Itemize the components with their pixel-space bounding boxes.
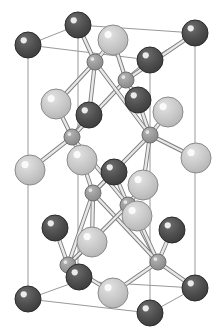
atom-specular-highlight bbox=[123, 200, 127, 204]
atom-dark-atom bbox=[125, 87, 151, 113]
atom-sphere bbox=[182, 275, 208, 301]
atom-small-atom bbox=[85, 185, 101, 201]
atom-sphere bbox=[42, 215, 68, 241]
atom-sphere bbox=[98, 278, 128, 308]
atom-light-atom bbox=[181, 143, 211, 173]
atom-specular-highlight bbox=[128, 207, 135, 214]
atom-light-atom bbox=[15, 155, 45, 185]
crystal-structure-figure bbox=[0, 0, 222, 334]
atom-dark-atom bbox=[137, 47, 163, 73]
atom-sphere bbox=[67, 145, 97, 175]
atom-dark-atom bbox=[182, 20, 208, 46]
atom-dark-atom bbox=[65, 12, 91, 38]
atom-small-atom bbox=[118, 72, 134, 88]
crystal-structure-canvas bbox=[0, 0, 222, 334]
atom-specular-highlight bbox=[188, 25, 194, 31]
atom-sphere bbox=[137, 47, 163, 73]
atom-specular-highlight bbox=[187, 149, 194, 156]
atom-sphere bbox=[128, 170, 158, 200]
atom-dark-atom bbox=[66, 264, 92, 290]
atom-dark-atom bbox=[137, 300, 163, 326]
atom-specular-highlight bbox=[145, 130, 149, 134]
atom-light-atom bbox=[67, 145, 97, 175]
atom-specular-highlight bbox=[121, 75, 125, 79]
atom-sphere bbox=[182, 20, 208, 46]
atom-specular-highlight bbox=[72, 269, 78, 275]
atom-specular-highlight bbox=[21, 291, 27, 297]
atom-sphere bbox=[87, 54, 103, 70]
atom-sphere bbox=[41, 89, 71, 119]
atom-dark-atom bbox=[42, 215, 68, 241]
atom-specular-highlight bbox=[21, 161, 28, 168]
atom-sphere bbox=[77, 227, 107, 257]
atom-light-atom bbox=[122, 201, 152, 231]
atom-specular-highlight bbox=[134, 176, 141, 183]
atom-specular-highlight bbox=[153, 257, 157, 261]
atom-sphere bbox=[159, 217, 185, 243]
atom-specular-highlight bbox=[159, 103, 166, 110]
atom-specular-highlight bbox=[107, 164, 113, 170]
atom-light-atom bbox=[77, 227, 107, 257]
atom-light-atom bbox=[41, 89, 71, 119]
atom-light-atom bbox=[128, 170, 158, 200]
atom-light-atom bbox=[98, 278, 128, 308]
atom-specular-highlight bbox=[73, 151, 80, 158]
atom-sphere bbox=[101, 159, 127, 185]
atom-sphere bbox=[66, 264, 92, 290]
atom-sphere bbox=[64, 129, 80, 145]
atom-specular-highlight bbox=[48, 220, 54, 226]
atom-specular-highlight bbox=[131, 92, 137, 98]
atom-sphere bbox=[118, 72, 134, 88]
atom-sphere bbox=[15, 155, 45, 185]
atom-sphere bbox=[125, 87, 151, 113]
atom-specular-highlight bbox=[104, 31, 111, 38]
atom-specular-highlight bbox=[47, 95, 54, 102]
atom-dark-atom bbox=[159, 217, 185, 243]
atom-specular-highlight bbox=[143, 52, 149, 58]
atom-sphere bbox=[15, 32, 41, 58]
atom-sphere bbox=[150, 254, 166, 270]
atom-sphere bbox=[122, 201, 152, 231]
atom-specular-highlight bbox=[63, 260, 67, 264]
atom-sphere bbox=[65, 12, 91, 38]
atom-specular-highlight bbox=[188, 280, 194, 286]
atom-specular-highlight bbox=[71, 17, 77, 23]
unit-cell-edge bbox=[28, 299, 150, 313]
atom-sphere bbox=[85, 185, 101, 201]
atom-specular-highlight bbox=[21, 37, 27, 43]
atom-sphere bbox=[98, 25, 128, 55]
atom-specular-highlight bbox=[67, 132, 71, 136]
atom-sphere bbox=[76, 102, 102, 128]
atom-light-atom bbox=[153, 97, 183, 127]
atom-dark-atom bbox=[15, 286, 41, 312]
atom-light-atom bbox=[98, 25, 128, 55]
atom-small-atom bbox=[64, 129, 80, 145]
atom-dark-atom bbox=[76, 102, 102, 128]
atom-small-atom bbox=[142, 127, 158, 143]
atom-sphere bbox=[153, 97, 183, 127]
atom-specular-highlight bbox=[88, 188, 92, 192]
atom-dark-atom bbox=[15, 32, 41, 58]
atom-small-atom bbox=[150, 254, 166, 270]
atom-sphere bbox=[15, 286, 41, 312]
atom-specular-highlight bbox=[90, 57, 94, 61]
atom-specular-highlight bbox=[82, 107, 88, 113]
atom-small-atom bbox=[87, 54, 103, 70]
atom-sphere bbox=[137, 300, 163, 326]
atom-dark-atom bbox=[182, 275, 208, 301]
atom-sphere bbox=[181, 143, 211, 173]
atom-specular-highlight bbox=[165, 222, 171, 228]
atom-dark-atom bbox=[101, 159, 127, 185]
unit-cell-edge bbox=[78, 25, 195, 33]
atom-specular-highlight bbox=[104, 284, 111, 291]
atom-specular-highlight bbox=[83, 233, 90, 240]
atom-specular-highlight bbox=[143, 305, 149, 311]
atom-sphere bbox=[142, 127, 158, 143]
